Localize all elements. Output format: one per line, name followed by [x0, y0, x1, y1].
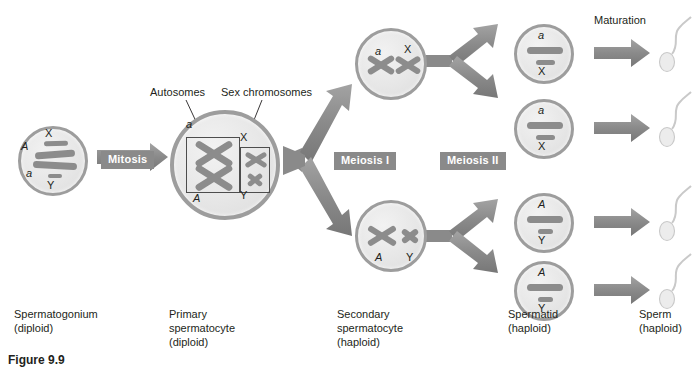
caption-sperm: Sperm (haploid) — [639, 308, 682, 336]
label-secondary-top-autosome: a — [375, 46, 381, 57]
label-primary-sex-upper: X — [240, 132, 247, 143]
label-spermatid-2-sex: X — [538, 141, 545, 152]
label-spermatid-1-autosome: a — [538, 30, 544, 41]
caption-spermatid-name: Spermatid — [508, 308, 558, 322]
label-spermatid-3-sex: Y — [538, 235, 545, 246]
label-spermatogonium-sex-lower: Y — [47, 180, 54, 191]
caption-spermatid: Spermatid (haploid) — [508, 308, 558, 336]
label-spermatogonium-sex-upper: X — [45, 128, 52, 139]
meiosis-two-arrow-lower — [426, 199, 498, 273]
caption-spermatogonium-name: Spermatogonium — [14, 308, 98, 322]
chromosome-autosome — [527, 284, 563, 291]
caption-spermatid-ploidy: (haploid) — [508, 322, 558, 336]
maturation-arrow-2 — [594, 114, 650, 142]
caption-primary-name: Primary — [169, 308, 235, 322]
maturation-arrow-3 — [594, 208, 650, 236]
meiosis-two-arrow-upper — [424, 24, 498, 98]
chromosome-tetrad-upper — [193, 142, 235, 166]
sperm-cell-3 — [660, 186, 692, 241]
chromosome-autosome-long-2 — [33, 161, 77, 170]
chromosome-autosome-A — [366, 225, 398, 246]
sex-chromosomes-box — [240, 147, 270, 193]
maturation-arrow-4 — [594, 276, 650, 304]
caption-primary-name2: spermatocyte — [169, 322, 235, 336]
chromosome-autosome-a — [366, 55, 396, 75]
chromosome-sex-y — [400, 227, 419, 244]
label-primary-autosome-upper: a — [186, 119, 192, 130]
caption-primary-ploidy: (diploid) — [169, 336, 235, 350]
chromosome-y — [246, 172, 263, 187]
sperm-cell-1 — [660, 17, 692, 72]
label-spermatid-1-sex: X — [538, 66, 545, 77]
chromosome-autosome — [527, 216, 563, 223]
label-primary-sex-lower: Y — [240, 190, 247, 201]
chromosome-x — [244, 151, 268, 169]
label-secondary-top-sex: X — [404, 44, 411, 55]
caption-spermatogonium-ploidy: (diploid) — [14, 322, 98, 336]
caption-secondary-spermatocyte: Secondary spermatocyte (haploid) — [337, 308, 403, 349]
caption-secondary-name2: spermatocyte — [337, 322, 403, 336]
process-label-meiosis-one: Meiosis I — [334, 152, 396, 170]
sperm-cell-2 — [660, 92, 692, 147]
cell-secondary-spermatocyte-top — [355, 28, 427, 100]
chromosome-tetrad-lower — [193, 166, 235, 190]
caption-sperm-ploidy: (haploid) — [639, 322, 682, 336]
caption-secondary-ploidy: (haploid) — [337, 336, 403, 350]
figure-number-caption: Figure 9.9 — [8, 353, 65, 367]
chromosome-autosome-long-1 — [35, 150, 75, 160]
chromosome-sex-x — [394, 55, 422, 74]
label-secondary-bottom-autosome: A — [375, 252, 382, 263]
chromosome-sex-y — [48, 174, 62, 178]
process-label-mitosis: Mitosis — [101, 151, 154, 169]
callout-autosomes-label: Autosomes — [150, 86, 205, 99]
cell-secondary-spermatocyte-bottom — [355, 200, 427, 272]
maturation-arrow-1 — [594, 39, 650, 67]
label-primary-autosome-lower: A — [193, 193, 200, 204]
caption-secondary-name: Secondary — [337, 308, 403, 322]
label-secondary-bottom-sex: Y — [406, 252, 413, 263]
label-spermatid-3-autosome: A — [538, 199, 545, 210]
chromosome-autosome — [527, 47, 563, 54]
sperm-cell-4 — [660, 254, 692, 309]
caption-sperm-name: Sperm — [639, 308, 682, 322]
chromosome-autosome — [527, 122, 563, 129]
autosomes-box — [186, 137, 240, 193]
caption-spermatogonium: Spermatogonium (diploid) — [14, 308, 98, 336]
process-label-meiosis-two: Meiosis II — [440, 152, 506, 170]
process-label-maturation: Maturation — [594, 14, 646, 26]
caption-primary-spermatocyte: Primary spermatocyte (diploid) — [169, 308, 235, 349]
callout-sex-chromosomes-label: Sex chromosomes — [221, 86, 312, 99]
label-spermatogonium-autosome-lower: a — [26, 168, 32, 179]
label-spermatid-2-autosome: a — [538, 105, 544, 116]
label-spermatid-4-autosome: A — [538, 267, 545, 278]
chromosome-sex-x — [44, 141, 68, 147]
label-spermatogonium-autosome-upper: A — [21, 141, 28, 152]
